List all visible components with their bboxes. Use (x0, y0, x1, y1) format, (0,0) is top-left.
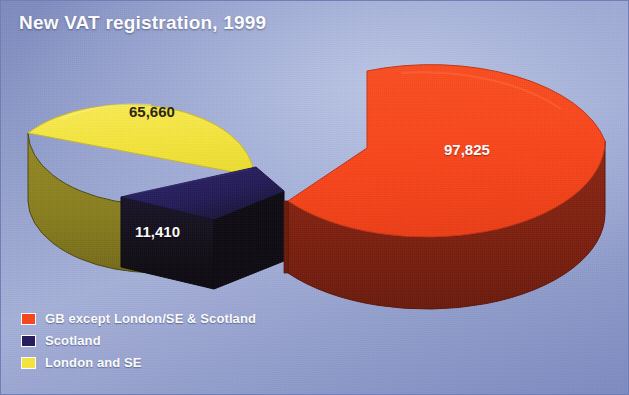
chart-figure: New VAT registration, 1999 (0, 0, 629, 395)
legend-label-london-and-se: London and SE (45, 355, 142, 370)
legend-item-gb-except-london-se-and-scotland[interactable]: GB except London/SE & Scotland (21, 311, 256, 326)
pie-chart: 97,825 65,660 11,410 (1, 1, 629, 311)
pie-slice-scotland[interactable] (121, 167, 284, 289)
legend-label-scotland: Scotland (45, 333, 101, 348)
pie-slice-gb-except-london-se-and-scotland[interactable] (284, 65, 605, 309)
legend-label-gb: GB except London/SE & Scotland (45, 311, 256, 326)
pie-chart-svg (1, 1, 629, 311)
legend-item-scotland[interactable]: Scotland (21, 333, 256, 348)
legend-item-london-and-se[interactable]: London and SE (21, 355, 256, 370)
chart-legend: GB except London/SE & Scotland Scotland … (21, 311, 256, 370)
legend-swatch-icon-gb (21, 313, 36, 325)
legend-swatch-icon-scotland (21, 335, 36, 347)
legend-swatch-icon-london-and-se (21, 357, 36, 369)
